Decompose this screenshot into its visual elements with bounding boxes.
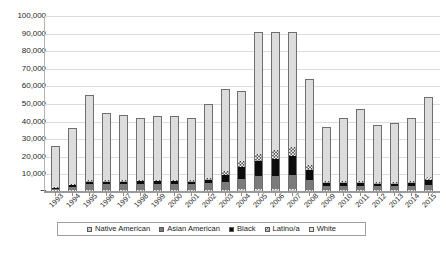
bar-segment: [154, 117, 161, 180]
bar-column[interactable]: [335, 16, 352, 192]
bar-column[interactable]: [132, 16, 149, 192]
bar-segment: [255, 161, 262, 176]
stacked-bar[interactable]: [254, 32, 263, 192]
y-axis-tick-label: 80,000: [4, 47, 46, 55]
bar-column[interactable]: [403, 16, 420, 192]
bar-segment: [306, 170, 313, 180]
y-axis-tick-label: 70,000: [4, 65, 46, 73]
bar-segment: [323, 128, 330, 181]
legend-item-label: Asian American: [167, 225, 220, 233]
legend-item[interactable]: Asian American: [159, 225, 220, 233]
bar-segment: [272, 33, 279, 150]
x-axis-label-slot: 1999: [149, 196, 166, 222]
x-axis-label-slot: 2003: [217, 196, 234, 222]
stacked-bar[interactable]: [136, 118, 145, 192]
stacked-bar[interactable]: [85, 95, 94, 192]
stacked-bar[interactable]: [339, 118, 348, 192]
bar-column[interactable]: [98, 16, 115, 192]
stacked-bar[interactable]: [407, 118, 416, 192]
x-axis-label-slot: 1996: [98, 196, 115, 222]
plot-area: [44, 16, 440, 192]
bar-column[interactable]: [284, 16, 301, 192]
bar-segment: [238, 92, 245, 161]
bar-column[interactable]: [420, 16, 437, 192]
stacked-bar[interactable]: [170, 116, 179, 192]
legend-item[interactable]: Latino/a: [265, 225, 300, 233]
bar-segment: [205, 105, 212, 178]
bar-segment: [374, 126, 381, 182]
bar-segment: [205, 183, 212, 190]
bar-segment: [425, 98, 432, 176]
x-axis-label-slot: 2012: [369, 196, 386, 222]
bar-column[interactable]: [81, 16, 98, 192]
bar-segment: [137, 119, 144, 180]
bar-column[interactable]: [318, 16, 335, 192]
stacked-bar[interactable]: [322, 127, 331, 192]
bar-column[interactable]: [183, 16, 200, 192]
legend-item[interactable]: Native American: [87, 225, 150, 233]
bar-segment: [272, 159, 279, 176]
bar-column[interactable]: [267, 16, 284, 192]
x-axis-label-slot: 1995: [81, 196, 98, 222]
stacked-bar[interactable]: [51, 146, 60, 192]
x-axis-label-slot: 2015: [420, 196, 437, 222]
bar-column[interactable]: [301, 16, 318, 192]
bar-segment: [171, 117, 178, 180]
legend-swatch-icon: [159, 227, 164, 232]
bar-column[interactable]: [64, 16, 81, 192]
bar-segment: [272, 176, 279, 190]
x-axis-label-slot: 2006: [267, 196, 284, 222]
bar-segment: [103, 114, 110, 180]
stacked-bar[interactable]: [271, 32, 280, 192]
bar-segment: [255, 154, 262, 161]
stacked-bar[interactable]: [204, 104, 213, 192]
stacked-bar[interactable]: [68, 128, 77, 192]
y-axis-tick-label: 100,000: [4, 12, 46, 20]
stacked-bar[interactable]: [373, 125, 382, 192]
bar-segment: [222, 182, 229, 190]
bar-column[interactable]: [47, 16, 64, 192]
x-axis-tick-labels: 1993199419951996199719981999200020012002…: [44, 196, 440, 222]
bar-segment: [306, 180, 313, 189]
x-axis-label-slot: 1994: [64, 196, 81, 222]
bar-column[interactable]: [166, 16, 183, 192]
bar-column[interactable]: [369, 16, 386, 192]
legend-swatch-icon: [309, 227, 314, 232]
stacked-bar[interactable]: [288, 32, 297, 192]
x-axis-label-slot: 1993: [47, 196, 64, 222]
bar-column[interactable]: [200, 16, 217, 192]
bar-column[interactable]: [233, 16, 250, 192]
stacked-bar[interactable]: [153, 116, 162, 192]
bar-column[interactable]: [149, 16, 166, 192]
bar-column[interactable]: [352, 16, 369, 192]
bar-segment: [222, 90, 229, 171]
bar-segment: [289, 175, 296, 189]
legend-item-label: Native American: [95, 225, 150, 233]
stacked-bar[interactable]: [237, 91, 246, 192]
legend-item[interactable]: White: [309, 225, 336, 233]
bar-segment: [289, 156, 296, 174]
bar-column[interactable]: [386, 16, 403, 192]
bar-segment: [289, 147, 296, 157]
stacked-bar[interactable]: [187, 118, 196, 192]
x-axis-label-slot: 2010: [335, 196, 352, 222]
stacked-bar[interactable]: [119, 115, 128, 192]
bar-segment: [255, 33, 262, 154]
bar-series-group: [44, 16, 440, 192]
stacked-bar[interactable]: [102, 113, 111, 192]
bar-column[interactable]: [115, 16, 132, 192]
legend-item-label: Black: [237, 225, 256, 233]
stacked-bar[interactable]: [305, 79, 314, 192]
stacked-bar[interactable]: [424, 97, 433, 192]
stacked-bar[interactable]: [390, 123, 399, 192]
bar-column[interactable]: [217, 16, 234, 192]
stacked-bar[interactable]: [356, 109, 365, 192]
y-axis-tick-label: 50,000: [4, 100, 46, 108]
bar-column[interactable]: [250, 16, 267, 192]
bar-segment: [52, 147, 59, 187]
stacked-bar[interactable]: [221, 89, 230, 192]
y-axis-tick-label: –: [4, 186, 46, 194]
x-axis-label-slot: 2005: [250, 196, 267, 222]
bar-segment: [120, 116, 127, 181]
legend-item[interactable]: Black: [229, 225, 256, 233]
